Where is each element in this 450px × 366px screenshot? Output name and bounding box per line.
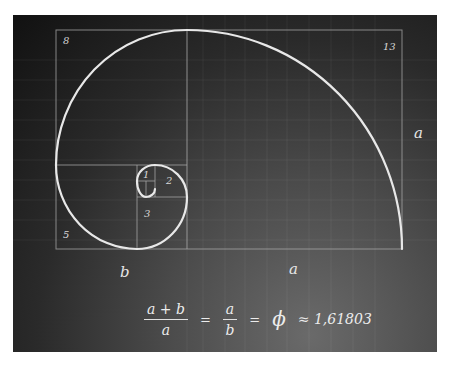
- equals-sign: =: [200, 312, 211, 327]
- numerator: a + b: [144, 301, 188, 320]
- label-square-1: 1: [143, 170, 149, 180]
- fraction-a-plus-b-over-a: a + b a: [144, 301, 188, 338]
- side-label-a-right: a: [414, 126, 423, 141]
- label-square-5: 5: [63, 230, 69, 240]
- golden-spiral: [56, 30, 402, 249]
- label-square-13: 13: [383, 42, 396, 52]
- fraction-a-over-b: a b: [223, 301, 237, 338]
- denominator: a: [162, 320, 170, 338]
- phi-value: ≈ 1,61803: [298, 311, 372, 327]
- golden-ratio-formula: a + b a = a b = ϕ ≈ 1,61803: [144, 299, 372, 339]
- equals-sign: =: [249, 312, 260, 327]
- golden-rectangle: [56, 30, 402, 249]
- denominator: b: [226, 320, 235, 338]
- label-square-8: 8: [63, 36, 69, 46]
- diagram-panel: 8 13 1 2 3 5 b a a a + b a = a b = ϕ ≈ 1…: [13, 15, 437, 352]
- label-square-2: 2: [166, 176, 172, 186]
- phi-symbol: ϕ: [272, 307, 286, 331]
- side-label-b: b: [120, 265, 130, 280]
- side-label-a-bottom: a: [289, 262, 298, 277]
- label-square-3: 3: [144, 209, 150, 219]
- numerator: a: [223, 301, 237, 320]
